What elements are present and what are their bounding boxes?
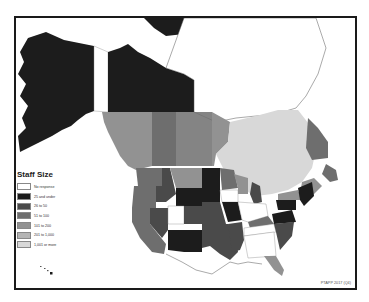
- region-saskatchewan: [176, 112, 212, 166]
- legend-label: 1,001 or more: [34, 243, 56, 247]
- region-carolinas: [274, 222, 294, 250]
- legend-swatch: [17, 212, 31, 219]
- region-newfoundland: [322, 164, 338, 182]
- region-washington: [136, 168, 162, 186]
- region-wyoming: [176, 188, 202, 206]
- region-british-columbia: [102, 112, 152, 170]
- region-oregon: [132, 186, 156, 208]
- legend-label: No response: [34, 185, 54, 189]
- coastline-mexico: [166, 254, 262, 274]
- legend-swatch: [17, 241, 31, 248]
- region-arctic-island: [144, 18, 184, 36]
- legend-item-1001-or-more: 1,001 or more: [17, 240, 56, 250]
- region-dakotas: [202, 168, 220, 202]
- legend-swatch: [17, 232, 31, 239]
- source-credit: PTAPP 2017 (Q4): [321, 281, 351, 285]
- region-montana: [170, 168, 202, 188]
- region-labrador: [306, 118, 328, 160]
- legend-item-25-and-under: 25 and under: [17, 192, 56, 202]
- legend-swatch: [17, 193, 31, 200]
- legend-label: 25 and under: [34, 195, 55, 199]
- legend-item-201-to-1000: 201 to 1,000: [17, 230, 56, 240]
- region-hawaii: [40, 266, 53, 275]
- region-alberta: [152, 112, 176, 166]
- legend-item-no-response: No response: [17, 182, 56, 192]
- region-florida: [264, 256, 284, 276]
- legend-swatch: [17, 203, 31, 210]
- region-alaska: [18, 32, 94, 152]
- region-new-england: [298, 182, 314, 206]
- region-arizona: [168, 230, 184, 252]
- legend-title: Staff Size: [17, 170, 56, 179]
- legend: Staff Size No response 25 and under 26 t…: [17, 170, 56, 250]
- legend-label: 26 to 50: [34, 204, 47, 208]
- legend-swatch: [17, 222, 31, 229]
- choropleth-map: [16, 18, 355, 288]
- region-southeast-no-response: [244, 232, 276, 258]
- region-new-mexico: [184, 230, 202, 252]
- region-utah: [168, 206, 184, 224]
- legend-item-101-to-200: 101 to 200: [17, 221, 56, 231]
- legend-swatch: [17, 183, 31, 190]
- region-yukon: [94, 46, 108, 112]
- region-pennsylvania: [276, 200, 296, 210]
- map-frame: Staff Size No response 25 and under 26 t…: [14, 16, 357, 290]
- legend-label: 201 to 1,000: [34, 233, 54, 237]
- legend-item-51-to-100: 51 to 100: [17, 211, 56, 221]
- legend-item-26-to-50: 26 to 50: [17, 201, 56, 211]
- legend-label: 51 to 100: [34, 214, 49, 218]
- region-iowa: [220, 190, 238, 202]
- region-virginia: [272, 210, 296, 224]
- legend-label: 101 to 200: [34, 224, 51, 228]
- region-colorado: [184, 206, 212, 224]
